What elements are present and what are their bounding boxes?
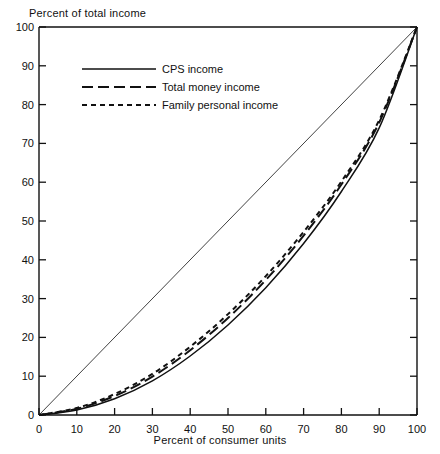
x-axis-label: Percent of consumer units (0, 434, 440, 446)
y-tick-label: 60 (22, 176, 34, 188)
lorenz-curve-chart: Percent of total income CPS incomeTotal … (0, 0, 440, 454)
y-tick-label: 0 (28, 409, 34, 421)
y-tick-label: 70 (22, 137, 34, 149)
y-tick-label: 50 (22, 215, 34, 227)
y-tick-label: 10 (22, 370, 34, 382)
chart-legend: CPS incomeTotal money incomeFamily perso… (82, 63, 278, 111)
y-tick-label: 100 (16, 21, 34, 33)
y-tick-labels: 0102030405060708090100 (16, 21, 34, 421)
x-axis-ticks (39, 408, 417, 415)
legend-label-2: Family personal income (162, 99, 278, 111)
y-tick-label: 80 (22, 99, 34, 111)
plot-area: CPS incomeTotal money incomeFamily perso… (0, 0, 440, 454)
y-tick-label: 90 (22, 60, 34, 72)
legend-label-0: CPS income (162, 63, 223, 75)
y-tick-label: 20 (22, 331, 34, 343)
y-tick-label: 40 (22, 254, 34, 266)
y-tick-label: 30 (22, 293, 34, 305)
legend-label-1: Total money income (162, 81, 260, 93)
